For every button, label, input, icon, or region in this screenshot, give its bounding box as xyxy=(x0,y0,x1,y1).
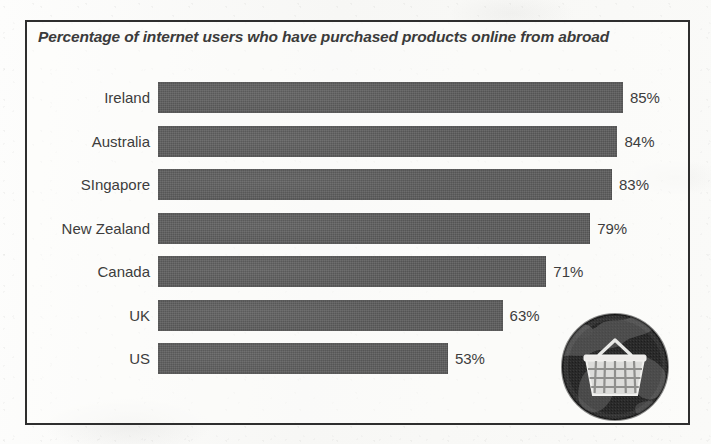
category-label: US xyxy=(25,343,150,374)
bar-track: 84% xyxy=(158,126,690,157)
bar xyxy=(158,126,617,157)
bar-value-label: 53% xyxy=(448,343,485,374)
bar xyxy=(158,213,590,244)
bar xyxy=(158,343,448,374)
category-label: New Zealand xyxy=(25,213,150,244)
bar-track: 79% xyxy=(158,213,690,244)
bar-row: Ireland85% xyxy=(25,82,690,113)
bar xyxy=(158,169,612,200)
chart-page: Percentage of internet users who have pu… xyxy=(0,0,711,444)
category-label: SIngapore xyxy=(25,169,150,200)
category-label: Australia xyxy=(25,126,150,157)
bar-row: New Zealand79% xyxy=(25,213,690,244)
bar-value-label: 84% xyxy=(617,126,654,157)
bar-value-label: 63% xyxy=(503,300,540,331)
bar xyxy=(158,256,546,287)
category-label: Canada xyxy=(25,256,150,287)
category-label: Ireland xyxy=(25,82,150,113)
bar-track: 83% xyxy=(158,169,690,200)
bar-row: SIngapore83% xyxy=(25,169,690,200)
bar-track: 85% xyxy=(158,82,690,113)
bar-value-label: 71% xyxy=(546,256,583,287)
bar-track: 71% xyxy=(158,256,690,287)
bar-row: Canada71% xyxy=(25,256,690,287)
bar-value-label: 83% xyxy=(612,169,649,200)
bar-value-label: 85% xyxy=(623,82,660,113)
globe-shopping-basket-icon xyxy=(561,313,669,421)
bar xyxy=(158,300,503,331)
bar-row: Australia84% xyxy=(25,126,690,157)
chart-title: Percentage of internet users who have pu… xyxy=(38,28,609,46)
bar-value-label: 79% xyxy=(590,213,627,244)
bar xyxy=(158,82,623,113)
category-label: UK xyxy=(25,300,150,331)
